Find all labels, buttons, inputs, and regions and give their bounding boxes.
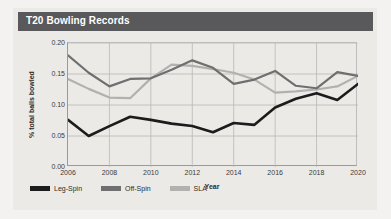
y-tick-label: 0.10 <box>39 101 65 108</box>
legend-item-leg-spin[interactable]: Leg-Spin <box>30 185 82 192</box>
series-lines <box>68 43 358 167</box>
x-tick-label: 2012 <box>177 169 207 176</box>
x-tick-label: 2014 <box>219 169 249 176</box>
legend-label: SLA <box>194 185 207 192</box>
y-axis-title: % total balls bowled <box>24 55 38 155</box>
x-tick-label: 2008 <box>94 169 124 176</box>
x-tick-label: 2020 <box>343 169 373 176</box>
legend-swatch-icon <box>170 186 190 191</box>
x-tick-label: 2006 <box>53 169 83 176</box>
series-line-leg-spin <box>68 84 358 136</box>
legend-label: Leg-Spin <box>54 185 82 192</box>
x-tick-label: 2016 <box>260 169 290 176</box>
legend-label: Off-Spin <box>125 185 151 192</box>
chart-page: T20 Bowling Records % total balls bowled… <box>0 0 391 219</box>
legend-swatch-icon <box>30 186 50 191</box>
x-tick-label: 2018 <box>302 169 332 176</box>
plot-wrapper: % total balls bowled 0.000.050.100.150.2… <box>18 33 373 210</box>
series-line-off-spin <box>68 55 358 88</box>
y-tick-label: 0.20 <box>39 39 65 46</box>
page-title: T20 Bowling Records <box>26 15 130 26</box>
chart-title-bar: T20 Bowling Records <box>18 12 373 31</box>
legend-swatch-icon <box>101 186 121 191</box>
y-tick-label: 0.05 <box>39 132 65 139</box>
legend-item-off-spin[interactable]: Off-Spin <box>101 185 151 192</box>
plot-area: 0.000.050.100.150.2020062008201020122014… <box>67 42 357 166</box>
legend-item-sla[interactable]: SLA <box>170 185 207 192</box>
x-tick-label: 2010 <box>136 169 166 176</box>
y-tick-label: 0.15 <box>39 70 65 77</box>
chart-legend: Leg-SpinOff-SpinSLA <box>30 185 207 192</box>
